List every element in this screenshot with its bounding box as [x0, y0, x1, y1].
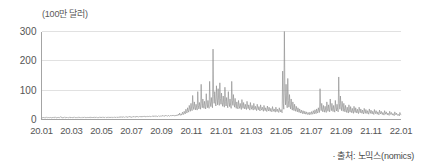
x-tick-label-21.07: 21.07 — [300, 125, 322, 136]
y-tick-label-100: 100 — [20, 85, 37, 96]
x-tick-label-21.03: 21.03 — [240, 125, 262, 136]
x-tick-label-21.01: 21.01 — [210, 125, 232, 136]
source-note: · 출처: 노믹스(nomics) — [332, 149, 414, 162]
y-tick-label-200: 200 — [20, 55, 37, 66]
data-series-line — [42, 32, 402, 119]
x-tick-label-20.03: 20.03 — [60, 125, 82, 136]
x-tick-label-20.09: 20.09 — [150, 125, 172, 136]
x-tick-label-21.11: 21.11 — [360, 125, 382, 136]
line-chart-svg: 010020030020.0120.0320.0520.0720.0920.11… — [0, 0, 422, 166]
x-tick-label-20.01: 20.01 — [30, 125, 52, 136]
x-tick-label-21.09: 21.09 — [330, 125, 352, 136]
chart-container: (100만 달러) 010020030020.0120.0320.0520.07… — [0, 0, 422, 166]
y-tick-label-0: 0 — [31, 114, 37, 125]
x-tick-label-20.11: 20.11 — [181, 125, 203, 136]
y-tick-label-300: 300 — [20, 26, 37, 37]
x-tick-label-20.07: 20.07 — [120, 125, 142, 136]
x-tick-label-22.01: 22.01 — [390, 125, 412, 136]
x-tick-label-20.05: 20.05 — [90, 125, 112, 136]
x-tick-label-21.05: 21.05 — [270, 125, 292, 136]
plot-area: 010020030020.0120.0320.0520.0720.0920.11… — [0, 0, 422, 166]
